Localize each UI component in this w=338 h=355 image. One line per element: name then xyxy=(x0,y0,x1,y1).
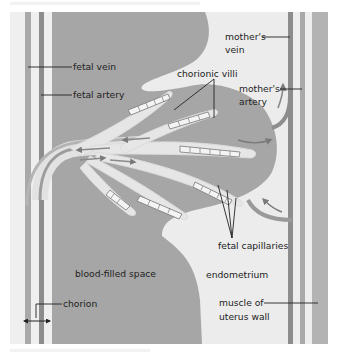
mothers-vein-label-line2: vein xyxy=(225,44,245,55)
mothers-vein-vessel xyxy=(288,12,293,344)
endometrium-label: endometrium xyxy=(206,269,268,280)
mothers-artery-vessel xyxy=(300,12,305,344)
uterus-wall xyxy=(288,12,328,344)
fetal-artery-label: fetal artery xyxy=(73,89,125,100)
fetal-vein-label: fetal vein xyxy=(73,61,116,72)
cropped-caption-bottom xyxy=(10,349,150,352)
cropped-caption-top xyxy=(10,2,200,5)
mothers-artery-label-line2: artery xyxy=(239,96,267,107)
muscle-layer xyxy=(312,12,328,344)
mothers-artery-label-line1: mother's xyxy=(239,83,280,94)
fetal-capillaries-label: fetal capillaries xyxy=(218,240,288,251)
placenta-diagram: fetal vein fetal artery chorionic villi … xyxy=(0,0,338,355)
blood-filled-space-label: blood-filled space xyxy=(75,268,156,279)
chorionic-villi-label: chorionic villi xyxy=(177,68,237,79)
muscle-label-line2: uterus wall xyxy=(219,311,270,322)
muscle-label-line1: muscle of xyxy=(219,297,264,308)
chorion-label: chorion xyxy=(63,298,97,309)
mothers-vein-label-line1: mother's xyxy=(225,31,266,42)
